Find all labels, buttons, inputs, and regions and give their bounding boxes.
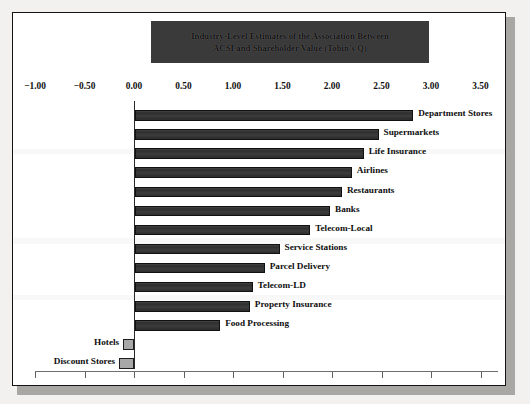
x-axis-tick-labels: −1.00−0.500.000.501.001.502.002.503.003.… (13, 81, 507, 99)
bar-positive[interactable] (135, 206, 330, 216)
bar-positive[interactable] (135, 110, 413, 120)
bar-category-label: Department Stores (418, 108, 492, 118)
plot-area: Department StoresSupermarketsLife Insura… (134, 101, 498, 369)
bar-category-label: Parcel Delivery (270, 261, 330, 271)
bar-category-label: Restaurants (347, 185, 394, 195)
bar-category-label: Service Stations (285, 242, 348, 252)
x-axis-tick-label: 1.50 (274, 81, 290, 91)
x-axis-tick (233, 372, 234, 378)
bar-positive[interactable] (135, 282, 253, 292)
x-axis-tick (283, 372, 284, 378)
bar-positive[interactable] (135, 244, 280, 254)
bar-row[interactable]: Property Insurance (135, 297, 498, 316)
bar-row[interactable]: Airlines (135, 163, 498, 182)
bar-row[interactable]: Hotels (13, 335, 134, 354)
chart-title: Industry-Level Estimates of the Associat… (191, 30, 389, 55)
bar-category-label: Food Processing (225, 318, 289, 328)
bar-category-label: Banks (335, 204, 360, 214)
bar-category-label: Supermarkets (384, 127, 440, 137)
bar-category-label: Discount Stores (54, 356, 115, 366)
x-axis-tick-label: −0.50 (74, 81, 96, 91)
bar-negative[interactable] (123, 339, 134, 349)
bar-category-label: Telecom-LD (258, 280, 306, 290)
bar-category-label: Airlines (357, 165, 388, 175)
chart-title-banner: Industry-Level Estimates of the Associat… (151, 21, 429, 63)
x-axis-tick (481, 372, 482, 378)
bar-row[interactable]: Department Stores (135, 106, 498, 125)
bar-positive[interactable] (135, 129, 379, 139)
bar-category-label: Property Insurance (255, 299, 332, 309)
bar-positive[interactable] (135, 320, 220, 330)
bar-row[interactable]: Telecom-Local (135, 221, 498, 240)
bar-row[interactable]: Service Stations (135, 240, 498, 259)
bar-negative[interactable] (119, 358, 134, 368)
x-axis-tick-label: −1.00 (24, 81, 46, 91)
x-axis-tick (184, 372, 185, 378)
bar-row[interactable]: Restaurants (135, 182, 498, 201)
bar-row[interactable]: Supermarkets (135, 125, 498, 144)
bar-positive[interactable] (135, 263, 265, 273)
bar-row[interactable]: Banks (135, 202, 498, 221)
chart-title-line-1: Industry-Level Estimates of the Associat… (191, 30, 389, 43)
bar-positive[interactable] (135, 148, 364, 158)
x-axis-tick (382, 372, 383, 378)
x-axis-line (35, 371, 498, 382)
x-axis-tick-label: 3.50 (472, 81, 488, 91)
bar-row[interactable]: Parcel Delivery (135, 259, 498, 278)
negative-bars-region: HotelsDiscount Stores (13, 101, 134, 369)
bar-row[interactable]: Life Insurance (135, 144, 498, 163)
x-axis-tick-label: 1.00 (225, 81, 241, 91)
figure-frame: Industry-Level Estimates of the Associat… (12, 12, 506, 386)
x-axis-tick (35, 372, 36, 378)
chart-title-line-2: ACSI and Shareholder Value (Tobin's Q) (191, 42, 389, 55)
bar-row[interactable]: Telecom-LD (135, 278, 498, 297)
bar-positive[interactable] (135, 187, 342, 197)
bar-category-label: Hotels (94, 337, 119, 347)
x-axis-tick (134, 372, 135, 378)
x-axis-tick-label: 2.00 (324, 81, 340, 91)
bar-category-label: Telecom-Local (315, 223, 372, 233)
x-axis-tick-label: 0.50 (175, 81, 191, 91)
bar-row[interactable]: Food Processing (135, 316, 498, 335)
x-axis-tick-label: 2.50 (373, 81, 389, 91)
x-axis-tick (85, 372, 86, 378)
bar-positive[interactable] (135, 167, 352, 177)
x-axis-tick (332, 372, 333, 378)
x-axis-tick-label: 0.00 (126, 81, 142, 91)
bar-positive[interactable] (135, 301, 250, 311)
bar-positive[interactable] (135, 225, 310, 235)
x-axis-tick (431, 372, 432, 378)
x-axis-tick-label: 3.00 (423, 81, 439, 91)
bar-category-label: Life Insurance (369, 146, 426, 156)
